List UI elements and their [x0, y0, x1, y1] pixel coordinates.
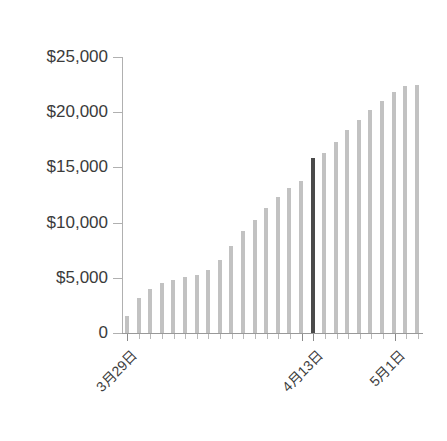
x-axis-tick: [313, 334, 314, 341]
plot-area: [122, 57, 422, 333]
x-axis-tick: [278, 334, 279, 339]
y-axis-tick: [113, 167, 122, 168]
x-axis-tick: [267, 334, 268, 339]
x-axis-tick: [395, 334, 396, 341]
bar: [229, 246, 233, 333]
bar: [334, 142, 338, 333]
bar: [206, 270, 210, 333]
bar: [148, 289, 152, 333]
bar: [276, 197, 280, 333]
bar: [137, 298, 141, 333]
bar: [392, 92, 396, 333]
bar: [299, 181, 303, 333]
bar: [368, 110, 372, 333]
x-axis-tick: [348, 334, 349, 339]
x-axis-tick: [197, 334, 198, 339]
x-axis-tick: [290, 334, 291, 339]
x-axis-tick: [139, 334, 140, 339]
bar: [183, 277, 187, 333]
y-axis-tick-label: $20,000: [2, 102, 108, 122]
bar: [160, 283, 164, 333]
bar: [253, 220, 257, 333]
x-axis-tick: [127, 334, 128, 341]
y-axis-tick: [113, 223, 122, 224]
x-axis-tick: [302, 334, 303, 341]
x-axis-tick: [243, 334, 244, 339]
x-axis-tick-label: 4月13日: [269, 345, 327, 403]
bar: [218, 260, 222, 333]
y-axis-label-group: $25,000$20,000$15,000$10,000$5,0000: [0, 0, 108, 441]
x-axis-tick: [337, 334, 338, 339]
x-axis-tick: [150, 334, 151, 339]
x-axis-tick: [185, 334, 186, 339]
y-axis-tick-label: $5,000: [2, 268, 108, 288]
y-axis-tick-label: 0: [2, 323, 108, 343]
x-axis-tick: [371, 334, 372, 339]
bar: [171, 280, 175, 333]
x-axis-tick-label: 5月1日: [351, 345, 409, 403]
y-axis-tick-label: $25,000: [2, 47, 108, 67]
bar: [287, 188, 291, 333]
x-axis-tick: [232, 334, 233, 339]
x-axis-line: [122, 333, 423, 334]
bar: [195, 275, 199, 334]
bar-highlighted: [311, 158, 315, 333]
bar: [264, 208, 268, 333]
x-axis-tick: [325, 334, 326, 339]
x-axis-tick: [174, 334, 175, 339]
y-axis-tick-label: $10,000: [2, 213, 108, 233]
x-axis-tick: [360, 334, 361, 339]
bar: [415, 85, 419, 333]
bar: [357, 120, 361, 333]
bar: [380, 101, 384, 333]
bar-series: [122, 57, 422, 333]
x-axis-tick: [220, 334, 221, 339]
bar: [345, 130, 349, 333]
y-axis-tick: [113, 57, 122, 58]
bar: [403, 86, 407, 333]
x-axis-tick: [255, 334, 256, 339]
bar: [241, 231, 245, 333]
bar: [322, 153, 326, 333]
y-axis-tick-label: $15,000: [2, 157, 108, 177]
x-axis-tick: [208, 334, 209, 339]
x-axis-tick: [383, 334, 384, 339]
x-axis-tick: [418, 334, 419, 339]
y-axis-tick: [113, 278, 122, 279]
y-axis-tick: [113, 333, 122, 334]
x-axis-tick: [406, 334, 407, 339]
y-axis-tick: [113, 112, 122, 113]
bar: [125, 316, 129, 333]
chart-page: $25,000$20,000$15,000$10,000$5,0000 3月29…: [0, 0, 447, 441]
x-axis-tick: [162, 334, 163, 339]
